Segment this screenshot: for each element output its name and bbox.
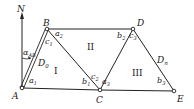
angle-a1: a1 <box>29 76 37 86</box>
angle-b3: b3 <box>157 76 165 86</box>
angle-a2: a2 <box>55 29 63 39</box>
angle-c1: c1 <box>45 37 53 47</box>
angle-c2: c2 <box>91 72 99 82</box>
angle-b2: b2 <box>117 31 125 41</box>
edge-ce <box>100 90 174 91</box>
triangle-label-ii: II <box>87 42 95 52</box>
point-label-e: E <box>176 94 184 104</box>
point-label-c: C <box>96 95 103 105</box>
edge-ac <box>22 88 100 90</box>
baseline-label-d0: D0 <box>37 58 49 69</box>
triangle-label-i: I <box>54 66 58 76</box>
angle-b1: b1 <box>82 77 90 87</box>
north-label: N <box>16 4 26 14</box>
triangulation-diagram: N αAB A B C D E D0 Dn I II III a1 b1 <box>0 0 194 109</box>
point-label-a: A <box>11 91 19 101</box>
edge-de <box>133 29 174 91</box>
angle-labels: a1 b1 c1 a2 b2 c2 a3 b3 c3 <box>29 29 165 87</box>
point-label-b: B <box>42 18 50 28</box>
angle-a3: a3 <box>102 77 110 87</box>
triangle-label-iii: III <box>132 68 143 78</box>
station-e-marker <box>172 89 176 93</box>
point-label-d: D <box>136 18 144 28</box>
baseline-label-dn: Dn <box>156 55 168 66</box>
station-a-marker <box>20 86 24 90</box>
station-c-marker <box>98 88 102 92</box>
